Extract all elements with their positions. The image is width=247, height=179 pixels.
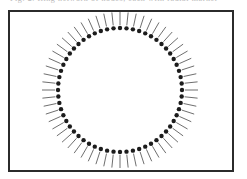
figure-frame-border <box>8 10 234 172</box>
clipped-caption-text: Fig. 2. Ring network of nodes, each with… <box>10 0 236 3</box>
figure-page: Fig. 2. Ring network of nodes, each with… <box>0 0 247 179</box>
